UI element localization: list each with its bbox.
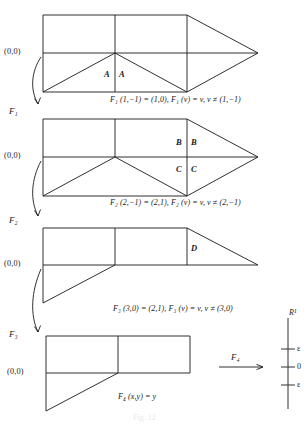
axis-tick-label-zero: 0 <box>297 363 301 371</box>
axis-tick-label-epsilon-positive: ε <box>297 345 300 353</box>
panel-1-vertex-label-a-left: A <box>104 70 110 79</box>
panel-4-equation: F₄ (x,y) = y <box>118 393 156 401</box>
arrow-f1 <box>33 57 41 104</box>
figure-caption: Fig. 12 <box>133 414 156 422</box>
map-label-f2: F₂ <box>9 216 18 225</box>
panel-2-equation: F₂ (2,−1) = (2,1), F₂ (v) = v, v ≠ (2,−1… <box>110 199 241 207</box>
panel-3-vertex-label-d: D <box>191 244 197 253</box>
panel-1-equation: F₁ (1,−1) = (1,0), F₁ (v) = v, v ≠ (1,−1… <box>110 96 241 104</box>
figure-container: (0,0) A A F₁ (1,−1) = (1,0), F₁ (v) = v,… <box>0 0 308 425</box>
panel-1-vertex-label-a-right: A <box>119 70 125 79</box>
axis-tick-label-epsilon-negative: ε <box>297 381 300 389</box>
panel-2-vertex-label-b-left: B <box>176 138 182 147</box>
panel-3-equation: F₃ (3,0) = (2,1), F₃ (v) = v, v ≠ (3,0) <box>113 305 233 313</box>
arrow-f4 <box>219 364 263 369</box>
panel-3-origin-label: (0,0) <box>4 260 21 268</box>
panel-2-origin-label: (0,0) <box>4 152 21 160</box>
r1-axis <box>281 318 295 409</box>
map-label-f3: F₃ <box>9 330 18 339</box>
panel-4-origin-label: (0,0) <box>7 368 24 376</box>
panel-1-origin-label: (0,0) <box>4 48 21 56</box>
panel-2-shape <box>43 119 258 196</box>
axis-name-r1: R¹ <box>289 309 296 317</box>
panel-1-shape <box>43 15 258 92</box>
panel-2-vertex-label-c-left: C <box>176 165 182 174</box>
map-label-f4: F₄ <box>231 353 240 362</box>
figure-linework <box>0 0 308 425</box>
panel-2-vertex-label-b-right: B <box>191 138 197 147</box>
panel-2-vertex-label-c-right: C <box>191 165 197 174</box>
map-label-f1: F₁ <box>9 107 18 116</box>
arrow-f3 <box>33 269 41 332</box>
arrow-f2 <box>33 161 41 216</box>
panel-3-shape <box>43 228 258 303</box>
